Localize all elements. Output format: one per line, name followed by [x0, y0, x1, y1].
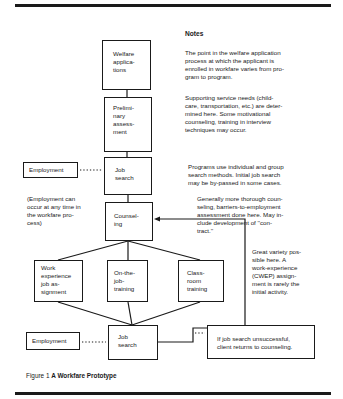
box-work-experience: Work experience job as- signment	[34, 260, 83, 302]
line-workexp-to-jobsearch	[58, 302, 132, 325]
figure-caption: Figure 1 A Workfare Prototype	[26, 372, 117, 379]
line-classroom-to-jobsearch	[132, 302, 200, 325]
box-job-search-initial: Job search	[104, 157, 152, 195]
feedback-arrowhead	[154, 217, 160, 222]
note-activities: Great variety pos- sible here. A work-ex…	[252, 248, 301, 297]
note-welfare-application: The point in the welfare application pro…	[185, 49, 284, 81]
box-job-search-final: Job search	[108, 325, 158, 360]
line-ojt-to-jobsearch	[128, 302, 132, 325]
caption-title: A Workfare Prototype	[51, 372, 116, 379]
employment-anytime-note: (Employment can occur at any time in the…	[27, 195, 81, 227]
box-on-the-job-training: On-the- job- training	[107, 260, 148, 302]
box-welfare-applications: Welfare applica- tions	[102, 40, 151, 90]
box-employment-top: Employment	[23, 162, 78, 178]
note-counseling: Generally more thorough coun- seling, ba…	[197, 195, 283, 235]
note-job-search-methods: Programs use individual and group search…	[188, 163, 284, 187]
box-counseling: Counsel- ing	[105, 202, 153, 241]
box-preliminary-assessment: Prelimi- nary assess- ment	[104, 97, 152, 152]
box-unsuccessful-note: If job search unsuccessful, client retur…	[207, 325, 315, 359]
box-classroom-training: Class- room training	[178, 260, 224, 302]
box-employment-bottom: Employment	[26, 332, 80, 350]
notes-heading: Notes	[185, 30, 203, 37]
line-counseling-to-workexp	[58, 241, 128, 260]
caption-number: Figure 1	[26, 372, 49, 379]
line-counseling-to-classroom	[128, 241, 200, 260]
note-supporting-services: Supporting service needs (child- care, t…	[185, 94, 282, 134]
